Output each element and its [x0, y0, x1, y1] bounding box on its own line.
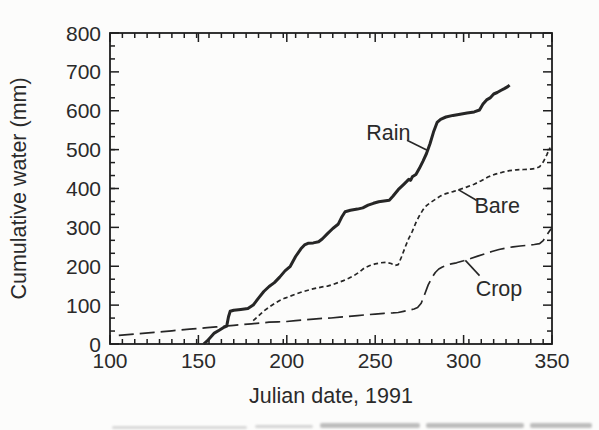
series-label-bare: Bare	[474, 194, 519, 218]
caption-remnant	[112, 426, 247, 429]
cumulative-water-chart: 1001502002503003500100200300400500600700…	[0, 0, 599, 430]
x-tick-label: 350	[534, 349, 569, 372]
y-axis-title: Cumulative water (mm)	[7, 77, 31, 299]
x-axis-title: Julian date, 1991	[249, 384, 413, 408]
caption-remnant	[530, 423, 592, 428]
series-rain-line	[204, 85, 510, 344]
y-tick-label: 100	[66, 294, 101, 317]
x-tick-label: 250	[358, 349, 393, 372]
caption-remnant	[320, 423, 420, 428]
series-label-rain: Rain	[366, 121, 410, 145]
y-tick-label: 300	[66, 216, 101, 239]
y-tick-label: 200	[66, 255, 101, 278]
caption-remnant	[255, 425, 313, 428]
caption-remnant	[426, 423, 524, 428]
y-tick-label: 700	[66, 60, 101, 83]
y-tick-label: 0	[89, 333, 101, 356]
y-tick-label: 800	[66, 22, 101, 45]
series-label-leader-crop	[465, 260, 479, 275]
y-tick-label: 600	[66, 99, 101, 122]
y-tick-label: 500	[66, 138, 101, 161]
x-tick-label: 150	[181, 349, 216, 372]
scanned-figure: 1001502002503003500100200300400500600700…	[0, 0, 599, 430]
x-tick-label: 200	[269, 349, 304, 372]
series-label-crop: Crop	[476, 277, 523, 301]
y-tick-label: 400	[66, 177, 101, 200]
x-tick-label: 300	[446, 349, 481, 372]
